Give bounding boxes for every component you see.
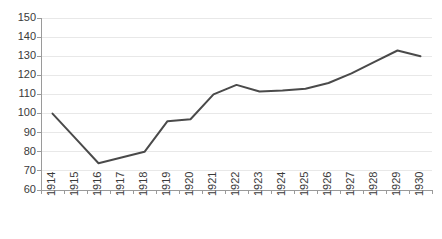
y-axis-tick-label: 90 bbox=[24, 126, 36, 138]
y-axis-tick-label: 150 bbox=[18, 11, 36, 23]
x-axis-tick-label: 1917 bbox=[114, 172, 126, 196]
x-axis-tick-label: 1929 bbox=[390, 172, 402, 196]
x-axis-tick-label: 1921 bbox=[206, 172, 218, 196]
x-axis-tick-label: 1922 bbox=[229, 172, 241, 196]
x-axis-tick-label: 1918 bbox=[137, 172, 149, 196]
x-axis-tick-label: 1915 bbox=[68, 172, 80, 196]
y-axis-tick-label: 70 bbox=[24, 164, 36, 176]
x-axis-tick-label: 1914 bbox=[45, 172, 57, 196]
line-chart: 60708090100110120130140150 1914191519161… bbox=[0, 0, 442, 239]
y-axis-tick-label: 120 bbox=[18, 68, 36, 80]
x-axis-tick-label: 1926 bbox=[321, 172, 333, 196]
x-axis-tick-label: 1927 bbox=[344, 172, 356, 196]
x-axis-tick-label: 1920 bbox=[183, 172, 195, 196]
y-axis-tick-label: 140 bbox=[18, 30, 36, 42]
x-axis-tick-label: 1928 bbox=[367, 172, 379, 196]
y-axis-tick-label: 100 bbox=[18, 106, 36, 118]
x-axis-tick-label: 1923 bbox=[252, 172, 264, 196]
y-axis-tick-label: 130 bbox=[18, 49, 36, 61]
y-axis-tick-label: 60 bbox=[24, 183, 36, 195]
y-axis-tick-label: 110 bbox=[18, 87, 36, 99]
x-axis-tick-label: 1924 bbox=[275, 172, 287, 196]
x-axis-tick-label: 1925 bbox=[298, 172, 310, 196]
y-axis-tick-label: 80 bbox=[24, 145, 36, 157]
chart-container: 60708090100110120130140150 1914191519161… bbox=[0, 0, 442, 239]
chart-background bbox=[0, 0, 442, 239]
x-axis-tick-label: 1919 bbox=[160, 172, 172, 196]
x-axis-tick-label: 1930 bbox=[413, 172, 425, 196]
x-axis-tick-label: 1916 bbox=[91, 172, 103, 196]
x-axis-labels: 1914191519161917191819191920192119221923… bbox=[45, 172, 425, 196]
